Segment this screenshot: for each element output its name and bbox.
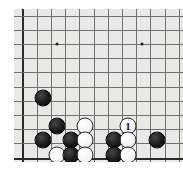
go-board[interactable]: 1 [14, 9, 183, 162]
grid-line-horizontal-4 [14, 72, 183, 73]
grid-line-horizontal-7 [14, 115, 183, 116]
grid-line-horizontal-5 [14, 87, 183, 88]
star-point-right [141, 43, 144, 46]
stone-black[interactable] [49, 118, 66, 135]
grid-line-horizontal-0 [14, 16, 183, 17]
stone-black[interactable] [35, 132, 52, 149]
grid-line-vertical-11 [179, 9, 180, 162]
stone-black[interactable] [35, 90, 52, 107]
stone-white[interactable] [77, 147, 94, 163]
star-point-left [56, 43, 59, 46]
grid-line-horizontal-2 [14, 44, 183, 45]
grid-line-horizontal-10 [14, 158, 183, 160]
grid-line-horizontal-3 [14, 58, 183, 59]
go-diagram-screenshot: 1 [0, 0, 183, 171]
grid-line-vertical-5 [94, 9, 95, 162]
stone-black[interactable] [149, 132, 166, 149]
grid-line-vertical-0 [22, 9, 24, 162]
stone-white[interactable] [120, 147, 137, 163]
grid-line-horizontal-8 [14, 129, 183, 130]
grid-line-horizontal-1 [14, 30, 183, 31]
